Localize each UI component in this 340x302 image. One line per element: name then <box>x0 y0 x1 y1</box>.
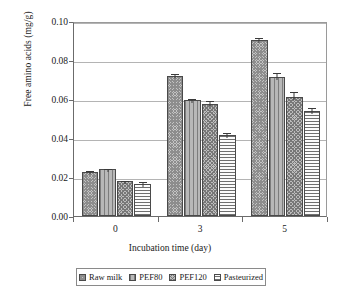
chart-legend: Raw milkPEF80PEF120Pasteurized <box>76 268 266 286</box>
legend-swatch-icon <box>129 274 136 281</box>
y-tick-label: 0.08 <box>34 56 68 66</box>
bar-group <box>167 23 236 216</box>
bar <box>219 135 236 216</box>
error-bar-cap <box>171 74 179 75</box>
error-bar-cap <box>104 169 112 170</box>
bar <box>304 111 321 216</box>
y-tick-label: 0.00 <box>34 212 68 222</box>
plot-area <box>73 22 327 217</box>
bar <box>99 169 116 216</box>
bar <box>202 104 219 216</box>
error-bar <box>290 92 298 100</box>
error-bar-cap <box>86 171 94 172</box>
x-tick-mark <box>158 217 159 222</box>
error-bar <box>104 169 112 173</box>
legend-item[interactable]: PEF120 <box>169 273 206 282</box>
error-bar-stem <box>294 92 295 100</box>
error-bar-cap <box>223 133 231 134</box>
bar-group <box>82 23 151 216</box>
error-bar <box>206 101 214 107</box>
error-bar-cap <box>255 38 263 39</box>
error-bar <box>121 181 129 184</box>
error-bar-cap <box>290 92 298 93</box>
x-tick-label: 5 <box>255 224 315 234</box>
error-bar-cap <box>273 73 281 74</box>
bar <box>82 172 99 216</box>
error-bar-cap <box>188 99 196 100</box>
error-bar-cap <box>121 181 129 182</box>
error-bar-stem <box>276 73 277 80</box>
error-bar <box>273 73 281 80</box>
legend-item[interactable]: PEF80 <box>129 273 162 282</box>
error-bar-cap <box>308 108 316 109</box>
y-tick-label: 0.04 <box>34 134 68 144</box>
legend-label: Raw milk <box>89 273 122 282</box>
error-bar-cap <box>139 182 147 183</box>
bar <box>184 100 201 216</box>
legend-label: PEF80 <box>139 273 162 282</box>
x-axis-title: Incubation time (day) <box>0 243 340 253</box>
y-axis-title: Free amino acids (mg/g) <box>21 0 35 139</box>
legend-swatch-icon <box>214 274 221 281</box>
error-bar <box>171 74 179 79</box>
legend-label: Pasteurized <box>224 273 263 282</box>
error-bar <box>223 133 231 138</box>
error-bar-cap <box>206 101 214 102</box>
legend-swatch-icon <box>169 274 176 281</box>
y-tick-label: 0.10 <box>34 17 68 27</box>
error-bar <box>139 182 147 187</box>
x-tick-mark <box>327 217 328 222</box>
bar <box>286 97 303 216</box>
error-bar <box>188 99 196 103</box>
bar <box>167 76 184 216</box>
bar <box>251 40 268 216</box>
error-bar <box>86 171 94 175</box>
error-bar <box>308 108 316 113</box>
bar-group <box>251 23 320 216</box>
error-bar <box>255 38 263 43</box>
bar <box>117 181 134 216</box>
chart-figure: Free amino acids (mg/g) 0.000.020.040.06… <box>0 0 340 302</box>
x-tick-mark <box>242 217 243 222</box>
y-tick-label: 0.02 <box>34 173 68 183</box>
x-tick-mark <box>73 217 74 222</box>
legend-item[interactable]: Raw milk <box>79 273 122 282</box>
legend-label: PEF120 <box>179 273 206 282</box>
y-tick-label: 0.06 <box>34 95 68 105</box>
bar <box>269 77 286 216</box>
x-tick-label: 0 <box>85 224 145 234</box>
legend-swatch-icon <box>79 274 86 281</box>
x-tick-label: 3 <box>170 224 230 234</box>
bar <box>134 184 151 216</box>
legend-item[interactable]: Pasteurized <box>214 273 263 282</box>
